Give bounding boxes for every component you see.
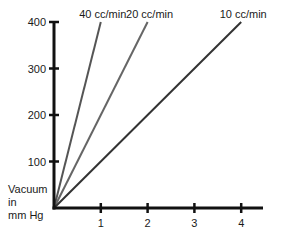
y-tick-label: 200 <box>28 109 46 121</box>
series-label: 40 cc/min <box>79 8 126 20</box>
y-tick-label: 400 <box>28 16 46 28</box>
y-tick-label: 300 <box>28 63 46 75</box>
y-axis-label-line-2: in <box>8 196 48 209</box>
y-axis-label-line-3: mm Hg <box>8 209 48 222</box>
series-line-40 <box>54 22 101 208</box>
series-label: 10 cc/min <box>220 8 267 20</box>
x-tick-label: 3 <box>191 217 197 229</box>
y-axis-label-line-1: Vacuum <box>8 183 48 196</box>
series-line-10 <box>54 22 241 208</box>
y-axis-label: Vacuum in mm Hg <box>8 183 48 222</box>
x-tick-label: 4 <box>238 217 244 229</box>
series-label: 20 cc/min <box>126 8 173 20</box>
x-tick-label: 1 <box>98 217 104 229</box>
x-tick-label: 2 <box>145 217 151 229</box>
y-tick-label: 100 <box>28 156 46 168</box>
series-line-20 <box>54 22 148 208</box>
